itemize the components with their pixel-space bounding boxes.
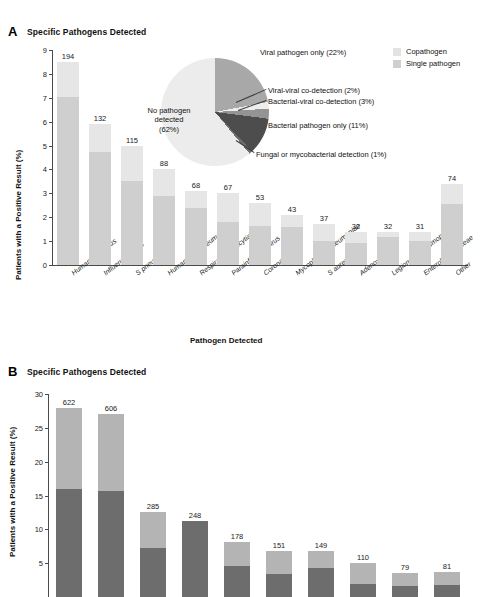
panel-a-y-tick bbox=[49, 169, 52, 170]
bar-value-label: 74 bbox=[448, 174, 456, 183]
bar bbox=[249, 203, 270, 265]
pie-center-label: No pathogendetected(62%) bbox=[137, 106, 201, 134]
bar bbox=[182, 521, 207, 597]
bar-segment-single-pathogen bbox=[121, 181, 142, 265]
bar-value-label: 149 bbox=[315, 541, 328, 550]
panel-a-y-tick-label: 8 bbox=[32, 69, 47, 78]
bar-segment-single-pathogen bbox=[441, 204, 462, 265]
bar-segment-single-pathogen bbox=[350, 584, 375, 597]
panel-a-y-tick-label: 9 bbox=[32, 46, 47, 55]
bar-segment-single-pathogen bbox=[217, 222, 238, 265]
panel-b-y-tick bbox=[45, 563, 48, 564]
bar-segment-copathogen bbox=[350, 563, 375, 584]
panel-a-y-tick-label: 6 bbox=[32, 117, 47, 126]
bar-segment-copathogen bbox=[313, 224, 334, 240]
panel-a-y-tick bbox=[49, 265, 52, 266]
bar-value-label: 132 bbox=[94, 114, 107, 123]
bar bbox=[434, 572, 459, 597]
pie-slice-label: Bacterial-viral co-detection (3%) bbox=[268, 97, 374, 106]
bar-segment-single-pathogen bbox=[182, 521, 207, 597]
bar-value-label: 68 bbox=[192, 181, 200, 190]
panel-a-y-tick bbox=[49, 241, 52, 242]
bar-segment-copathogen bbox=[140, 512, 165, 549]
pie-slice-label: Bacterial pathogen only (11%) bbox=[268, 121, 368, 130]
bar bbox=[392, 573, 417, 597]
panel-a-y-tick bbox=[49, 146, 52, 147]
pie-center-label-line: detected bbox=[137, 115, 201, 124]
bar-segment-copathogen bbox=[57, 62, 78, 97]
panel-a-y-tick-label: 1 bbox=[32, 237, 47, 246]
panel-b-y-tick bbox=[45, 496, 48, 497]
bar-segment-copathogen bbox=[121, 146, 142, 182]
bar-segment-single-pathogen bbox=[57, 97, 78, 265]
bar bbox=[308, 551, 333, 597]
bar bbox=[89, 124, 110, 265]
bar-value-label: 622 bbox=[63, 398, 76, 407]
bar-value-label: 81 bbox=[443, 562, 451, 571]
bar-segment-copathogen bbox=[224, 542, 249, 566]
bar bbox=[266, 551, 291, 597]
bar-value-label: 606 bbox=[105, 404, 118, 413]
bar-value-label: 88 bbox=[160, 159, 168, 168]
bar-segment-single-pathogen bbox=[89, 152, 110, 265]
bar-segment-copathogen bbox=[441, 184, 462, 204]
bar-value-label: 53 bbox=[256, 193, 264, 202]
panel-a-y-tick bbox=[49, 50, 52, 51]
bar-value-label: 67 bbox=[224, 183, 232, 192]
bar-segment-single-pathogen bbox=[434, 585, 459, 597]
bar-segment-single-pathogen bbox=[313, 241, 334, 265]
bar bbox=[57, 62, 78, 265]
bar-segment-single-pathogen bbox=[249, 226, 270, 265]
bar-segment-copathogen bbox=[185, 191, 206, 208]
bar-segment-single-pathogen bbox=[56, 489, 81, 597]
bar-value-label: 37 bbox=[320, 214, 328, 223]
panel-a-x-axis-label: Pathogen Detected bbox=[190, 336, 262, 345]
bar-value-label: 151 bbox=[273, 541, 286, 550]
bar-segment-single-pathogen bbox=[308, 568, 333, 597]
bar-value-label: 194 bbox=[62, 52, 75, 61]
panel-a-y-tick-label: 7 bbox=[32, 93, 47, 102]
legend-label: Copathogen bbox=[406, 47, 447, 56]
bar-segment-single-pathogen bbox=[266, 574, 291, 597]
panel-a-y-tick-label: 4 bbox=[32, 165, 47, 174]
bar-value-label: 248 bbox=[189, 511, 202, 520]
bar bbox=[140, 512, 165, 597]
legend-swatch bbox=[393, 60, 401, 68]
legend-swatch bbox=[393, 48, 401, 56]
bar bbox=[98, 414, 123, 597]
panel-a-y-tick bbox=[49, 122, 52, 123]
bar-segment-copathogen bbox=[434, 572, 459, 586]
bar-segment-copathogen bbox=[56, 408, 81, 490]
bar-segment-single-pathogen bbox=[140, 548, 165, 597]
bar-segment-copathogen bbox=[98, 414, 123, 491]
panel-b-y-axis bbox=[48, 394, 49, 597]
bar-segment-copathogen bbox=[308, 551, 333, 568]
bar bbox=[441, 184, 462, 265]
bar bbox=[350, 563, 375, 597]
panel-b-y-axis-label: Patients with a Positive Result (%) bbox=[8, 427, 17, 557]
panel-a-y-tick bbox=[49, 98, 52, 99]
bar bbox=[185, 191, 206, 265]
bar-segment-copathogen bbox=[217, 193, 238, 222]
panel-a-title: Specific Pathogens Detected bbox=[27, 27, 146, 37]
bar bbox=[281, 215, 302, 265]
bar-value-label: 285 bbox=[147, 502, 160, 511]
bar bbox=[409, 232, 430, 265]
panel-b-y-tick-label: 15 bbox=[26, 491, 43, 500]
panel-a-y-tick bbox=[49, 74, 52, 75]
panel-b-plot: Patients with a Positive Result (%) 5101… bbox=[0, 382, 480, 559]
panel-b-y-tick-label: 30 bbox=[26, 390, 43, 399]
bar-segment-single-pathogen bbox=[224, 566, 249, 597]
panel-a-letter: A bbox=[8, 24, 17, 39]
bar-value-label: 115 bbox=[126, 136, 138, 145]
panel-b-y-tick bbox=[45, 529, 48, 530]
panel-b-y-tick bbox=[45, 428, 48, 429]
bar-segment-copathogen bbox=[249, 203, 270, 226]
panel-a-y-axis-label: Patients with a Positive Result (%) bbox=[14, 150, 23, 280]
pie-slice-label: Viral-viral co-detection (2%) bbox=[268, 86, 360, 95]
bar-segment-single-pathogen bbox=[345, 243, 366, 265]
bar-segment-copathogen bbox=[153, 169, 174, 195]
bar bbox=[377, 232, 398, 265]
panel-b-title: Specific Pathogens Detected bbox=[27, 367, 146, 377]
